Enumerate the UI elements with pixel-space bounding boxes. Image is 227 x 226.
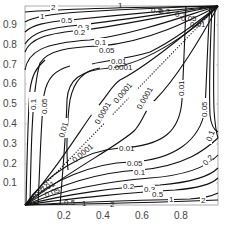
- contour-label: 0.2: [159, 7, 171, 16]
- y-tick-label: 0.7: [3, 59, 17, 70]
- contour-label: 0.05: [40, 98, 49, 114]
- x-tick-label: 0.6: [135, 210, 149, 221]
- contour-label: 0.5: [61, 16, 73, 25]
- contour-label: 0.5: [152, 190, 164, 199]
- x-tick-label: 0.4: [96, 210, 110, 221]
- contour-label: 1: [118, 1, 123, 10]
- y-tick-label: 0.6: [3, 78, 17, 89]
- contour-label: 0.2: [74, 28, 86, 37]
- contour-label: 0.5: [64, 198, 76, 207]
- contour-label: 0.01: [111, 57, 127, 66]
- y-tick-label: 0.5: [3, 98, 17, 109]
- contour-label: 0.05: [200, 101, 209, 117]
- y-tick-label: 0.9: [3, 19, 17, 30]
- contour-label: 2: [201, 196, 206, 205]
- y-tick-label: 0.4: [3, 118, 17, 129]
- contour-label: 0.01: [119, 144, 135, 153]
- contour-label: 0.05: [127, 159, 143, 168]
- x-tick-labels: 0.2 0.4 0.6 0.8: [57, 210, 188, 221]
- contour-label: 1: [169, 195, 174, 204]
- y-tick-label: 0.3: [3, 138, 17, 149]
- contour-chart: 0.9 0.8 0.7 0.6 0.5 0.4 0.3 0.2 0.1 0.2 …: [0, 0, 227, 226]
- contour-label: 1: [40, 12, 45, 21]
- contour-label: 0.1: [29, 98, 38, 110]
- contour-label: 2: [110, 200, 115, 209]
- contour-label: 0.1: [134, 168, 146, 177]
- contour-label: 1: [82, 199, 87, 208]
- y-tick-label: 0.1: [3, 177, 17, 188]
- contour-label: 2: [51, 3, 56, 12]
- x-tick-label: 0.8: [174, 210, 188, 221]
- contour-label: 0.05: [99, 46, 115, 55]
- contour-label: 0.01: [177, 80, 186, 96]
- contour-label: 0.01: [190, 20, 206, 29]
- y-tick-labels: 0.9 0.8 0.7 0.6 0.5 0.4 0.3 0.2 0.1: [3, 19, 17, 188]
- y-tick-label: 0.8: [3, 39, 17, 50]
- y-tick-label: 0.2: [3, 158, 17, 169]
- contour-label: 0.2: [123, 182, 135, 191]
- x-tick-label: 0.2: [57, 210, 71, 221]
